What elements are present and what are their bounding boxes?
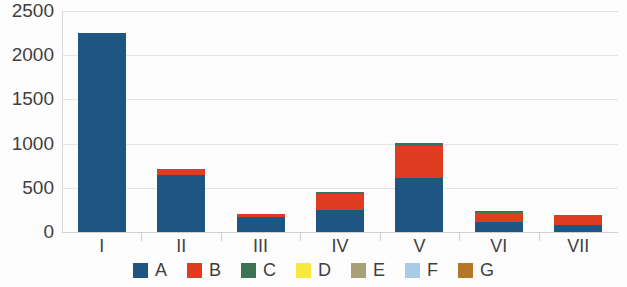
bar-stack[interactable] — [395, 143, 443, 232]
legend-swatch-icon — [296, 263, 311, 278]
bar-segment-a[interactable] — [78, 33, 126, 232]
y-axis-tick-label: 1500 — [0, 89, 54, 108]
legend-label: E — [373, 261, 385, 279]
legend-item-f[interactable]: F — [405, 261, 438, 279]
bar-stack[interactable] — [78, 33, 126, 232]
legend-item-g[interactable]: G — [458, 261, 494, 279]
bar-segment-b[interactable] — [554, 215, 602, 225]
legend-swatch-icon — [241, 263, 256, 278]
x-axis-tick-label-vii: VII — [538, 236, 618, 256]
bar-segment-a[interactable] — [554, 225, 602, 233]
bar-segment-b[interactable] — [395, 146, 443, 178]
legend-swatch-icon — [351, 263, 366, 278]
x-axis-tick-label-ii: II — [141, 236, 221, 256]
bar-stack[interactable] — [475, 211, 523, 232]
legend-item-b[interactable]: B — [187, 261, 221, 279]
stacked-bar-chart: 05001000150020002500 IIIIIIIVVVIVII ABCD… — [0, 0, 627, 287]
y-axis-tick-label: 0 — [0, 222, 54, 241]
legend-label: G — [480, 261, 494, 279]
x-axis-tick-label-vi: VI — [459, 236, 539, 256]
legend-label: B — [209, 261, 221, 279]
chart-legend: ABCDEFG — [0, 261, 627, 279]
legend-label: D — [318, 261, 331, 279]
legend-label: C — [263, 261, 276, 279]
legend-item-e[interactable]: E — [351, 261, 385, 279]
bar-stack[interactable] — [316, 192, 364, 232]
bar-stack[interactable] — [157, 169, 205, 232]
x-axis-line — [62, 232, 618, 233]
x-axis-tick-label-v: V — [379, 236, 459, 256]
bar-stack[interactable] — [554, 215, 602, 232]
legend-swatch-icon — [405, 263, 420, 278]
bars-layer — [62, 11, 618, 232]
bar-segment-a[interactable] — [157, 175, 205, 232]
y-axis-tick-label: 2000 — [0, 45, 54, 64]
bar-segment-b[interactable] — [475, 213, 523, 223]
legend-label: F — [427, 261, 438, 279]
legend-swatch-icon — [187, 263, 202, 278]
y-axis-tick-label: 2500 — [0, 1, 54, 20]
legend-item-c[interactable]: C — [241, 261, 276, 279]
legend-label: A — [155, 261, 167, 279]
bar-segment-a[interactable] — [237, 217, 285, 232]
y-axis-tick-label: 500 — [0, 178, 54, 197]
bar-segment-b[interactable] — [157, 169, 205, 176]
bar-segment-a[interactable] — [475, 222, 523, 232]
x-axis-tick-label-i: I — [62, 236, 142, 256]
legend-swatch-icon — [458, 263, 473, 278]
x-axis-tick-label-iii: III — [221, 236, 301, 256]
bar-segment-a[interactable] — [316, 210, 364, 232]
x-axis-tick-label-iv: IV — [300, 236, 380, 256]
legend-item-d[interactable]: D — [296, 261, 331, 279]
legend-item-a[interactable]: A — [133, 261, 167, 279]
y-axis-tick-label: 1000 — [0, 134, 54, 153]
legend-swatch-icon — [133, 263, 148, 278]
bar-stack[interactable] — [237, 214, 285, 232]
bar-segment-b[interactable] — [316, 194, 364, 210]
bar-segment-a[interactable] — [395, 178, 443, 232]
